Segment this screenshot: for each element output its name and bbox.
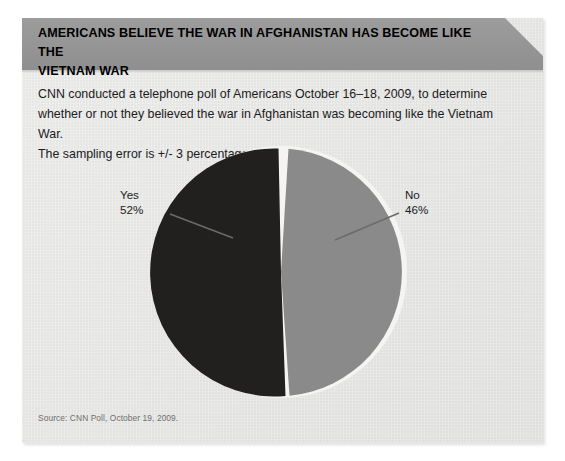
pie-chart-svg	[22, 18, 543, 443]
infographic-card: AMERICANS BELIEVE THE WAR IN AFGHANISTAN…	[22, 18, 543, 443]
pie-label-yes: Yes 52%	[120, 187, 143, 217]
source-note: Source: CNN Poll, October 19, 2009.	[38, 413, 178, 423]
pie-label-no: No 46%	[405, 187, 428, 217]
pie-slice-no[interactable]	[281, 149, 402, 396]
pie-slice-yes[interactable]	[150, 148, 285, 396]
pie-chart: Yes 52% No 46%	[22, 18, 543, 443]
